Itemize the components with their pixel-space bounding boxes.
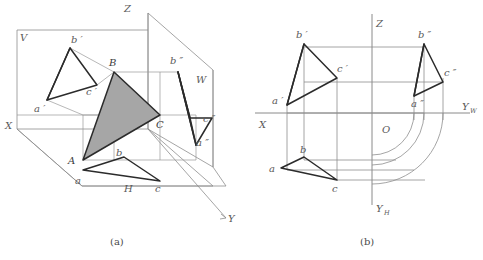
label-b-prime-b: b ′: [296, 29, 309, 40]
h-projection-triangle: [83, 157, 160, 181]
caption-a: (a): [110, 236, 124, 247]
b-v-triangle-edge-ab: [287, 44, 304, 105]
label-origin-O: O: [382, 124, 390, 135]
label-point-C: C: [156, 119, 164, 130]
label-c-double-b: c ″: [444, 67, 457, 78]
label-b-double-a: b ″: [170, 55, 184, 66]
label-plane-w: W: [196, 74, 207, 85]
label-a-prime-a: a ′: [34, 103, 46, 114]
label-c-prime-b: c ′: [337, 63, 349, 74]
technical-drawing-svg: V H W X Y Z B A C b ′ c ′ a ′ b a c b ″ …: [0, 0, 483, 260]
label-a-double-a: a ″: [196, 137, 209, 148]
label-b-prime-a: b ′: [71, 34, 84, 45]
label-axis-z-a: Z: [123, 3, 132, 14]
label-b-b: b: [300, 144, 306, 155]
b-h-projection-triangle: [281, 157, 337, 180]
figure-root: V H W X Y Z B A C b ′ c ′ a ′ b a c b ″ …: [0, 0, 483, 260]
label-point-B: B: [108, 57, 116, 68]
panel-b-group: X Z Y W Y H O b ′ c ′ a ′ b ″ c ″ a ″ b …: [255, 14, 478, 247]
transfer-arc-inner: [372, 113, 414, 155]
label-b-a: b: [116, 147, 122, 158]
label-axis-x-b: X: [258, 119, 267, 130]
caption-b: (b): [360, 236, 374, 247]
label-plane-h: H: [123, 183, 133, 194]
w-h-connector: [213, 167, 226, 186]
label-a-prime-b: a ′: [272, 95, 284, 106]
label-axis-yh-subscript: H: [383, 209, 390, 217]
label-a-a: a: [75, 175, 81, 186]
b-w-triangle-edge-ba: [414, 44, 424, 96]
label-c-b: c: [332, 183, 338, 194]
b-v-projection-triangle: [287, 44, 337, 105]
label-plane-v: V: [20, 32, 29, 43]
panel-a-group: V H W X Y Z B A C b ′ c ′ a ′ b a c b ″ …: [4, 3, 236, 247]
w-projection-edge-ba: [178, 72, 196, 145]
label-b-double-b: b ″: [418, 29, 432, 40]
label-c-prime-a: c ′: [86, 86, 98, 97]
label-axis-yw-subscript: W: [470, 107, 478, 115]
label-axis-x-a: X: [4, 120, 13, 131]
leader-b-to-bprime: [70, 48, 114, 72]
label-a-double-b: a ″: [411, 98, 424, 109]
transfer-arc-middle: [372, 113, 424, 165]
label-point-A: A: [67, 155, 75, 166]
label-axis-yh-b: Y: [376, 203, 384, 214]
label-axis-y-a: Y: [228, 213, 236, 224]
label-axis-yw-b: Y: [462, 101, 470, 112]
label-a-b: a: [269, 163, 275, 174]
label-axis-z-b: Z: [375, 18, 384, 29]
label-c-double-a: c ″: [203, 113, 216, 124]
leader-a-to-aprime: [47, 100, 83, 115]
label-c-a: c: [155, 183, 161, 194]
v-projection-edge-ab: [47, 48, 70, 100]
